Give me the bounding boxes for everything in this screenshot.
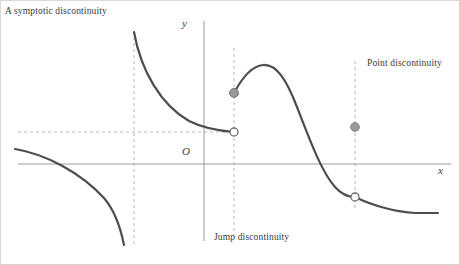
- asymptotic-discontinuity-label: A symptotic discontinuity: [5, 6, 107, 16]
- asymptotic-upper-branch: [134, 32, 234, 132]
- figure-canvas: A symptotic discontinuity Jump discontin…: [0, 0, 460, 265]
- discontinuity-plot: [1, 1, 460, 265]
- asymptotic-lower-branch: [15, 149, 124, 245]
- point-filled-point: [351, 123, 360, 132]
- jump-open-point: [230, 128, 238, 136]
- point-discontinuity-label: Point discontinuity: [367, 58, 442, 68]
- endpoint-markers: [230, 89, 360, 201]
- y-axis-label: y: [182, 17, 187, 29]
- main-s-curve: [234, 65, 355, 197]
- jump-filled-point: [230, 89, 239, 98]
- jump-discontinuity-label: Jump discontinuity: [214, 232, 289, 242]
- right-tail: [355, 197, 438, 213]
- x-axis-label: x: [438, 164, 443, 176]
- point-open-point: [351, 193, 359, 201]
- origin-label: O: [182, 145, 190, 157]
- guide-lines: [18, 31, 355, 246]
